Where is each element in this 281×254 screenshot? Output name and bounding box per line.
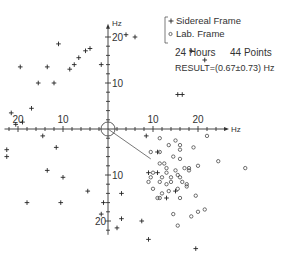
data-point-plus xyxy=(119,216,124,221)
data-point-circle xyxy=(158,180,161,183)
legend-circle-icon xyxy=(169,32,172,35)
data-point-circle xyxy=(174,169,177,172)
data-point-plus xyxy=(119,191,124,196)
data-point-circle xyxy=(178,148,181,151)
annotation-hours: 24 Hours xyxy=(175,47,216,58)
legend-label-sidereal: Sidereal Frame xyxy=(176,15,241,26)
data-point-circle xyxy=(149,150,152,153)
data-point-circle xyxy=(192,146,195,149)
data-point-circle xyxy=(183,166,186,169)
data-point-plus xyxy=(180,92,185,97)
data-point-circle xyxy=(178,157,181,160)
y-axis-arrow-icon xyxy=(106,24,110,29)
data-point-circle xyxy=(158,196,161,199)
x-tick-label: 10 xyxy=(147,114,159,125)
data-point-circle xyxy=(158,137,161,140)
series-lab-frame xyxy=(147,134,247,227)
data-point-plus xyxy=(4,147,9,152)
data-point-plus xyxy=(25,200,30,205)
y-tick-label: 10 xyxy=(112,78,124,89)
data-point-plus xyxy=(67,67,72,72)
data-point-circle xyxy=(176,224,179,227)
data-point-plus xyxy=(45,65,50,70)
data-point-circle xyxy=(167,189,170,192)
data-point-plus xyxy=(144,134,149,139)
data-point-plus xyxy=(36,81,41,86)
data-point-plus xyxy=(83,49,88,54)
data-point-plus xyxy=(85,189,90,194)
y-tick-label: 20 xyxy=(95,216,107,227)
data-point-circle xyxy=(194,194,197,197)
data-point-plus xyxy=(88,46,93,51)
data-point-circle xyxy=(160,192,163,195)
data-point-circle xyxy=(203,208,206,211)
data-point-circle xyxy=(172,155,175,158)
x-tick-label: 10 xyxy=(57,114,69,125)
data-point-plus xyxy=(99,62,104,67)
data-point-plus xyxy=(101,200,106,205)
data-point-plus xyxy=(61,175,66,180)
data-point-circle xyxy=(244,166,247,169)
data-point-circle xyxy=(174,139,177,142)
scatter-chart: 2010102020101020 Hz Hz Sidereal Frame La… xyxy=(0,0,281,254)
data-point-circle xyxy=(190,215,193,218)
y-tick-label: 10 xyxy=(112,170,124,181)
data-point-plus xyxy=(193,246,198,251)
data-point-plus xyxy=(72,62,77,67)
data-point-circle xyxy=(178,143,181,146)
legend-plus-icon xyxy=(169,19,174,24)
data-point-plus xyxy=(146,237,151,242)
data-point-plus xyxy=(146,170,151,175)
data-point-circle xyxy=(151,187,154,190)
data-point-plus xyxy=(133,35,138,40)
data-point-circle xyxy=(181,180,184,183)
data-point-plus xyxy=(52,81,57,86)
data-point-circle xyxy=(196,164,199,167)
annotation-points: 44 Points xyxy=(230,47,272,58)
data-point-plus xyxy=(18,65,23,70)
y-axis-label: Hz xyxy=(112,19,122,28)
result-vector-line xyxy=(108,129,151,159)
x-axis-label: Hz xyxy=(231,125,241,134)
data-point-circle xyxy=(165,171,168,174)
data-point-circle xyxy=(196,210,199,213)
data-point-circle xyxy=(217,160,220,163)
legend-bracket xyxy=(165,17,168,43)
data-point-plus xyxy=(115,226,120,231)
data-point-circle xyxy=(178,196,181,199)
data-point-circle xyxy=(151,171,154,174)
data-point-plus xyxy=(202,58,207,63)
data-point-plus xyxy=(175,92,180,97)
legend: Sidereal Frame Lab. Frame xyxy=(165,15,241,43)
data-point-circle xyxy=(178,176,181,179)
x-axis-arrow-icon xyxy=(224,127,229,131)
data-point-circle xyxy=(165,183,168,186)
data-point-circle xyxy=(163,162,166,165)
data-point-plus xyxy=(56,42,61,47)
x-tick-label: 20 xyxy=(192,114,204,125)
data-point-plus xyxy=(173,189,178,194)
data-point-circle xyxy=(147,180,150,183)
data-point-plus xyxy=(164,196,169,201)
data-point-plus xyxy=(4,154,9,159)
data-point-plus xyxy=(54,145,59,150)
data-point-plus xyxy=(139,219,144,224)
data-point-circle xyxy=(172,212,175,215)
data-point-plus xyxy=(155,170,160,175)
data-point-circle xyxy=(169,180,172,183)
data-point-circle xyxy=(165,166,168,169)
data-point-plus xyxy=(76,55,81,60)
data-point-circle xyxy=(187,169,190,172)
data-point-circle xyxy=(185,185,188,188)
data-point-circle xyxy=(205,134,208,137)
data-point-circle xyxy=(169,176,172,179)
data-point-circle xyxy=(167,143,170,146)
y-tick-label: 20 xyxy=(112,32,124,43)
data-point-plus xyxy=(58,200,63,205)
data-point-circle xyxy=(160,176,163,179)
data-point-circle xyxy=(149,176,152,179)
data-point-plus xyxy=(29,106,34,111)
data-point-plus xyxy=(45,168,50,173)
data-point-circle xyxy=(158,162,161,165)
data-point-plus xyxy=(124,32,129,37)
